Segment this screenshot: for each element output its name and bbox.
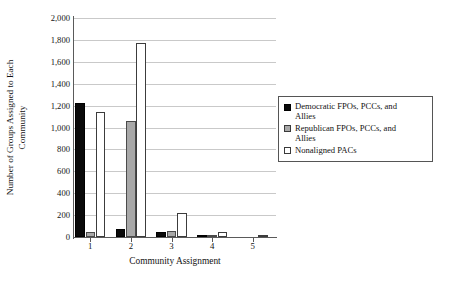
y-axis-title-line1: Number of Groups Assigned to Each [6,60,18,196]
y-axis-tick-label: 1,400 [30,79,70,88]
y-axis-tick-label: 2,000 [30,14,70,23]
bar-rep-2 [126,121,136,237]
y-axis-tick-label: 0 [30,233,70,242]
x-axis-title: Community Assignment [73,256,277,266]
y-axis-tick-labels: 02004006008001,0001,2001,4001,6001,8002,… [26,0,70,281]
x-axis-tick-label: 2 [121,241,141,251]
bar-group [197,18,227,237]
x-axis-tick-mark [172,238,173,242]
bar-non-3 [177,213,187,237]
x-axis-tick-label: 4 [202,241,222,251]
legend-swatch-democratic-icon [284,104,291,111]
legend-swatch-republican-icon [284,125,291,132]
x-axis-tick-mark [90,238,91,242]
y-axis-tick-label: 1,600 [30,58,70,67]
x-axis-line [73,237,277,238]
plot-area [73,18,276,237]
legend-label-republican: Republican FPOs, PCCs, and Allies [295,123,396,144]
legend-item-democratic: Democratic FPOs, PCCs, and Allies [284,101,427,122]
chart-legend: Democratic FPOs, PCCs, and Allies Republ… [278,96,433,162]
legend-item-republican: Republican FPOs, PCCs, and Allies [284,123,427,144]
y-axis-tick-label: 1,800 [30,36,70,45]
legend-label-democratic: Democratic FPOs, PCCs, and Allies [295,101,397,122]
y-axis-tick-label: 200 [30,211,70,220]
x-axis-tick-mark [212,238,213,242]
bar-group [75,18,105,237]
y-axis-tick-label: 400 [30,189,70,198]
legend-item-nonaligned: Nonaligned PACs [284,145,427,155]
x-axis-tick-label: 5 [243,241,263,251]
bar-group [116,18,146,237]
x-axis-tick-label: 3 [162,241,182,251]
bar-chart-figure: Number of Groups Assigned to Each Commun… [0,0,449,281]
x-axis-tick-label: 1 [80,241,100,251]
legend-label-nonaligned: Nonaligned PACs [295,145,357,155]
x-axis-tick-mark [131,238,132,242]
y-axis-line [73,16,74,239]
legend-swatch-nonaligned-icon [284,147,291,154]
bar-dem-1 [75,103,85,237]
x-axis-tick-mark [253,238,254,242]
bar-non-2 [136,43,146,237]
bar-dem-2 [116,229,126,237]
y-axis-tick-label: 1,000 [30,123,70,132]
y-axis-tick-label: 1,200 [30,101,70,110]
y-axis-tick-label: 600 [30,167,70,176]
bar-group [238,18,268,237]
bar-group [156,18,186,237]
y-axis-tick-label: 800 [30,145,70,154]
bar-non-1 [96,112,106,237]
